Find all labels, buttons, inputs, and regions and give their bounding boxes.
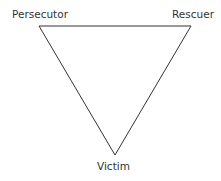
persecutor-label: Persecutor bbox=[12, 9, 68, 20]
rescuer-label: Rescuer bbox=[172, 9, 214, 20]
triangle-diagram bbox=[0, 0, 221, 181]
drama-triangle-shape bbox=[39, 26, 191, 155]
victim-label: Victim bbox=[97, 161, 130, 172]
